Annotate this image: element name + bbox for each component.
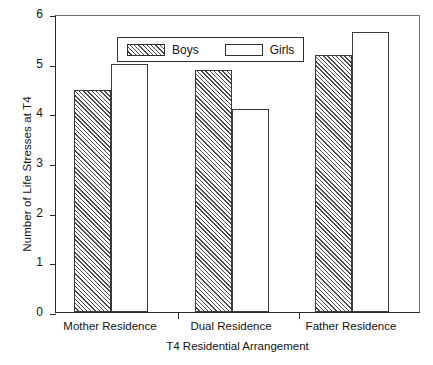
chart-legend: Boys Girls xyxy=(117,37,304,62)
x-tick-label: Mother Residence xyxy=(40,320,180,332)
bar-girls-mother-residence xyxy=(111,64,148,312)
y-tick-mark xyxy=(50,314,56,315)
y-tick-mark xyxy=(50,165,56,166)
bar-girls-dual-residence xyxy=(232,109,269,312)
y-tick-label: 0 xyxy=(23,306,43,318)
legend-swatch-girls xyxy=(225,44,263,56)
y-tick-label: 3 xyxy=(23,157,43,169)
y-tick-label: 1 xyxy=(23,256,43,268)
x-tick-label: Father Residence xyxy=(281,320,421,332)
y-tick-label: 2 xyxy=(23,207,43,219)
x-axis-title: T4 Residential Arrangement xyxy=(55,340,420,352)
x-tick-label: Dual Residence xyxy=(161,320,301,332)
legend-swatch-boys xyxy=(127,44,165,56)
y-tick-label: 5 xyxy=(23,58,43,70)
bar-chart-figure: Number of Life Stresses at T4 0123456 Bo… xyxy=(0,0,433,365)
x-tick-mark xyxy=(299,312,300,319)
y-tick-label: 4 xyxy=(23,107,43,119)
bar-boys-mother-residence xyxy=(74,90,111,313)
y-tick-mark xyxy=(50,16,56,17)
x-tick-mark xyxy=(178,312,179,319)
y-tick-label: 6 xyxy=(23,8,43,20)
legend-label-girls: Girls xyxy=(270,43,295,57)
bar-boys-dual-residence xyxy=(195,70,232,312)
bar-boys-father-residence xyxy=(315,55,352,312)
plot-area: Boys Girls xyxy=(55,15,420,313)
y-tick-mark xyxy=(50,215,56,216)
legend-label-boys: Boys xyxy=(172,43,199,57)
y-tick-mark xyxy=(50,115,56,116)
y-tick-mark xyxy=(50,66,56,67)
y-tick-mark xyxy=(50,264,56,265)
bar-girls-father-residence xyxy=(352,32,389,312)
